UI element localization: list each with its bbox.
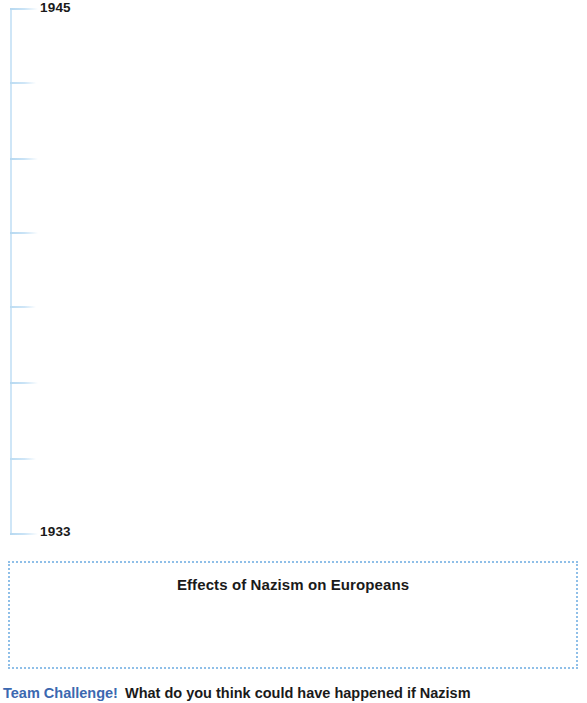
timeline-tick-1: [10, 8, 38, 10]
activity-answer-box[interactable]: Effects of Nazism on Europeans: [8, 561, 578, 669]
team-challenge-line: Team Challenge!What do you think could h…: [3, 683, 587, 703]
timeline-tick-2: [10, 82, 36, 84]
timeline-tick-6: [10, 382, 38, 384]
timeline-axis-region: 1945 1933: [0, 0, 587, 552]
timeline-label-end-year: 1945: [40, 0, 71, 15]
timeline-axis-line: [10, 8, 12, 534]
activity-title: Effects of Nazism on Europeans: [10, 576, 576, 593]
timeline-tick-7: [10, 458, 36, 460]
timeline-tick-5: [10, 306, 36, 308]
team-challenge-label: Team Challenge!: [3, 685, 118, 701]
timeline-tick-3: [10, 158, 38, 160]
timeline-tick-4: [10, 232, 38, 234]
timeline-label-start-year: 1933: [40, 524, 71, 539]
timeline-tick-8: [10, 533, 38, 535]
team-challenge-question: What do you think could have happened if…: [125, 685, 471, 701]
